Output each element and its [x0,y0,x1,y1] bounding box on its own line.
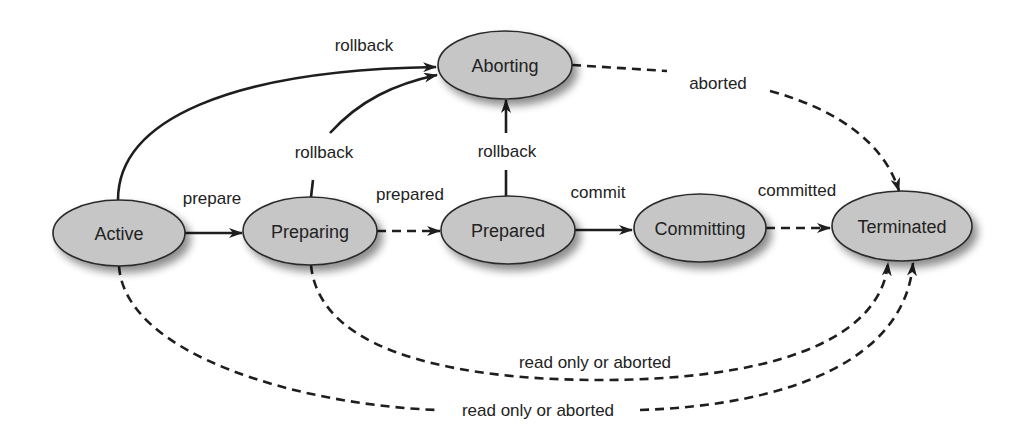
edge-active-to-terminated-start [119,266,438,410]
edge-label-rollback-active: rollback [335,36,394,55]
edge-label-read-only-outer: read only or aborted [462,401,614,420]
transaction-state-diagram: Active Preparing Prepared Committing Ter… [0,0,1026,442]
edge-label-prepared: prepared [376,185,444,204]
node-label-committing: Committing [654,219,745,239]
node-prepared[interactable]: Prepared [441,196,575,264]
node-label-terminated: Terminated [857,217,946,237]
edge-label-commit: commit [571,183,626,202]
edge-preparing-to-aborting-stem [311,180,313,197]
node-active[interactable]: Active [53,200,185,266]
edge-active-to-terminated [640,263,913,410]
node-terminated[interactable]: Terminated [832,191,972,261]
node-label-preparing: Preparing [271,222,349,242]
edge-aborting-to-terminated [770,91,899,191]
edge-active-to-aborting [118,67,436,200]
node-aborting[interactable]: Aborting [438,31,572,99]
edge-label-read-only-inner: read only or aborted [519,353,671,372]
edge-label-prepare: prepare [183,189,242,208]
edge-label-rollback-preparing: rollback [295,143,354,162]
edge-label-committed: committed [758,181,836,200]
edge-preparing-to-aborting [330,75,437,133]
node-preparing[interactable]: Preparing [243,197,377,265]
node-committing[interactable]: Committing [634,194,766,262]
edge-aborting-to-terminated-start [572,65,667,71]
node-label-active: Active [94,224,143,244]
edge-label-rollback-prepared: rollback [478,142,537,161]
node-label-prepared: Prepared [471,221,545,241]
node-label-aborting: Aborting [471,56,538,76]
edge-label-aborted: aborted [689,74,747,93]
